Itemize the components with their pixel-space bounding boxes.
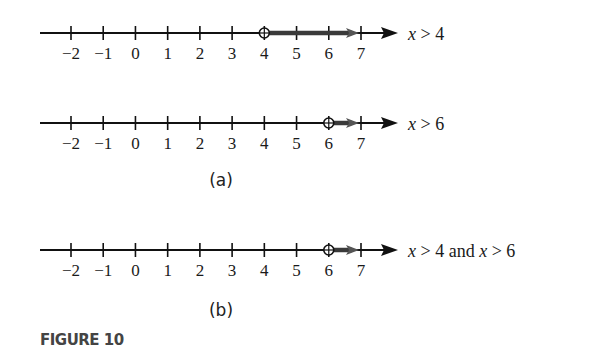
tick-label: 1 — [163, 134, 172, 153]
inequality-label-3: x > 4 and x > 6 — [407, 241, 515, 261]
tick-label: 4 — [260, 261, 269, 280]
tick-label: 6 — [325, 261, 334, 280]
tick-label: 2 — [196, 134, 205, 153]
tick-label: 2 — [196, 261, 205, 280]
tick-label: 3 — [228, 134, 237, 153]
tick-label: −2 — [62, 44, 80, 63]
tick-label: 2 — [196, 44, 205, 63]
number-line-3: −2−101234567 — [40, 243, 398, 280]
tick-label: 1 — [163, 44, 172, 63]
tick-label: 0 — [131, 261, 140, 280]
tick-label: 4 — [260, 44, 269, 63]
tick-label: 6 — [325, 44, 334, 63]
panel-label-a: (a) — [209, 170, 233, 190]
tick-label: −1 — [94, 261, 112, 280]
tick-label: −2 — [62, 261, 80, 280]
tick-label: 1 — [163, 261, 172, 280]
tick-label: 5 — [292, 44, 301, 63]
number-line-2: −2−101234567 — [40, 116, 398, 153]
tick-label: 7 — [357, 261, 366, 280]
tick-label: −1 — [94, 44, 112, 63]
tick-label: 7 — [357, 134, 366, 153]
panel-label-b: (b) — [209, 300, 233, 320]
tick-label: 5 — [292, 134, 301, 153]
tick-label: −1 — [94, 134, 112, 153]
figure-10-number-lines: −2−101234567−2−101234567−2−101234567 x >… — [0, 0, 602, 359]
figure-caption: FIGURE 10 — [40, 331, 124, 349]
tick-label: −2 — [62, 134, 80, 153]
number-lines-layer: −2−101234567−2−101234567−2−101234567 — [40, 26, 398, 280]
tick-label: 5 — [292, 261, 301, 280]
tick-label: 7 — [357, 44, 366, 63]
inequality-label-2: x > 6 — [407, 114, 444, 134]
number-line-1: −2−101234567 — [40, 26, 398, 63]
inequality-label-1: x > 4 — [407, 24, 444, 44]
tick-label: 4 — [260, 134, 269, 153]
tick-label: 3 — [228, 44, 237, 63]
tick-label: 0 — [131, 44, 140, 63]
tick-label: 6 — [325, 134, 334, 153]
tick-label: 3 — [228, 261, 237, 280]
tick-label: 0 — [131, 134, 140, 153]
